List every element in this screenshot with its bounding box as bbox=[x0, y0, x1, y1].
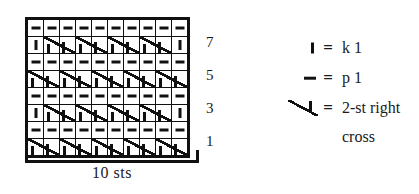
legend-equals-cross: = bbox=[318, 97, 338, 119]
cell-cross-left bbox=[44, 37, 60, 54]
cell-purl bbox=[108, 19, 124, 37]
cell-knit bbox=[172, 37, 189, 54]
cell-purl bbox=[124, 19, 140, 37]
cell-cross-left bbox=[156, 71, 172, 88]
cell-cross-right bbox=[76, 71, 92, 88]
chart-table bbox=[25, 17, 190, 158]
chart-row bbox=[27, 88, 189, 105]
legend-entry-cross: = 2-st right bbox=[272, 93, 400, 123]
cell-purl bbox=[44, 122, 60, 139]
cell-purl bbox=[92, 19, 108, 37]
cell-cross-left bbox=[108, 37, 124, 54]
cell-purl bbox=[172, 54, 189, 71]
purl-symbol-icon bbox=[272, 67, 318, 89]
knitting-chart-figure: 7531 10 sts = k 1 = p 1 = 2-st right cro… bbox=[0, 0, 419, 194]
cell-purl bbox=[27, 122, 44, 139]
cell-cross-left bbox=[44, 105, 60, 122]
legend-label-cross: 2-st right bbox=[338, 99, 400, 117]
cell-purl bbox=[76, 19, 92, 37]
cell-purl bbox=[108, 122, 124, 139]
cell-cross-right bbox=[92, 37, 108, 54]
cell-purl bbox=[92, 54, 108, 71]
cell-cross-left bbox=[140, 37, 156, 54]
cell-purl bbox=[27, 19, 44, 37]
chart-row bbox=[27, 105, 189, 122]
chart-row bbox=[27, 37, 189, 54]
cell-purl bbox=[76, 122, 92, 139]
cell-purl bbox=[92, 122, 108, 139]
cell-cross-right bbox=[60, 105, 76, 122]
cell-purl bbox=[60, 122, 76, 139]
cell-cross-right bbox=[140, 71, 156, 88]
cell-cross-left bbox=[124, 71, 140, 88]
legend-label-cross-continued: cross bbox=[272, 123, 400, 151]
cell-cross-left bbox=[27, 71, 44, 88]
stitch-count-label: 10 sts bbox=[25, 164, 199, 182]
row-number-column: 7531 bbox=[206, 17, 230, 147]
cell-cross-right bbox=[172, 71, 189, 88]
row-number-1: 1 bbox=[206, 134, 214, 149]
right-cross-symbol-icon bbox=[272, 97, 318, 119]
legend-entry-knit: = k 1 bbox=[272, 33, 400, 63]
cell-purl bbox=[60, 54, 76, 71]
row-number-7: 7 bbox=[206, 35, 214, 50]
chart-table-body bbox=[27, 19, 189, 157]
cell-purl bbox=[108, 54, 124, 71]
cell-purl bbox=[124, 54, 140, 71]
cell-cross-left bbox=[76, 37, 92, 54]
cell-cross-right bbox=[156, 105, 172, 122]
cell-purl bbox=[44, 88, 60, 105]
cell-purl bbox=[60, 19, 76, 37]
cell-purl bbox=[108, 88, 124, 105]
cell-cross-right bbox=[156, 37, 172, 54]
cell-purl bbox=[156, 19, 172, 37]
legend-label-purl: p 1 bbox=[338, 69, 362, 87]
chart-row bbox=[27, 54, 189, 71]
cell-purl bbox=[156, 88, 172, 105]
cell-cross-left bbox=[60, 71, 76, 88]
cell-purl bbox=[172, 88, 189, 105]
cell-purl bbox=[76, 88, 92, 105]
cell-purl bbox=[156, 54, 172, 71]
cell-purl bbox=[140, 19, 156, 37]
knit-symbol-icon bbox=[272, 37, 318, 59]
cell-cross-right bbox=[124, 37, 140, 54]
row-number-3: 3 bbox=[206, 101, 214, 116]
cell-purl bbox=[92, 88, 108, 105]
cell-purl bbox=[140, 88, 156, 105]
legend-equals-purl: = bbox=[318, 67, 338, 89]
cell-cross-right bbox=[108, 71, 124, 88]
cell-purl bbox=[60, 88, 76, 105]
cell-cross-left bbox=[76, 105, 92, 122]
legend-label-knit: k 1 bbox=[338, 39, 362, 57]
chart-row bbox=[27, 19, 189, 37]
cell-knit bbox=[27, 37, 44, 54]
cell-cross-right bbox=[124, 105, 140, 122]
stitch-chart-grid bbox=[25, 17, 190, 158]
cell-purl bbox=[27, 54, 44, 71]
cell-purl bbox=[172, 122, 189, 139]
row-number-5: 5 bbox=[206, 68, 214, 83]
cell-purl bbox=[140, 122, 156, 139]
cell-purl bbox=[44, 54, 60, 71]
cell-purl bbox=[156, 122, 172, 139]
cell-knit bbox=[27, 105, 44, 122]
chart-legend: = k 1 = p 1 = 2-st right cross bbox=[272, 33, 400, 151]
cell-purl bbox=[124, 88, 140, 105]
cell-cross-right bbox=[44, 71, 60, 88]
legend-equals-knit: = bbox=[318, 37, 338, 59]
cell-purl bbox=[27, 88, 44, 105]
cell-knit bbox=[172, 105, 189, 122]
chart-row bbox=[27, 71, 189, 88]
cell-purl bbox=[124, 122, 140, 139]
cell-purl bbox=[172, 19, 189, 37]
cell-cross-left bbox=[108, 105, 124, 122]
cell-purl bbox=[140, 54, 156, 71]
cell-cross-right bbox=[92, 105, 108, 122]
cell-cross-left bbox=[92, 71, 108, 88]
chart-row bbox=[27, 122, 189, 139]
cell-cross-left bbox=[140, 105, 156, 122]
legend-entry-purl: = p 1 bbox=[272, 63, 400, 93]
cell-purl bbox=[44, 19, 60, 37]
cell-cross-right bbox=[60, 37, 76, 54]
